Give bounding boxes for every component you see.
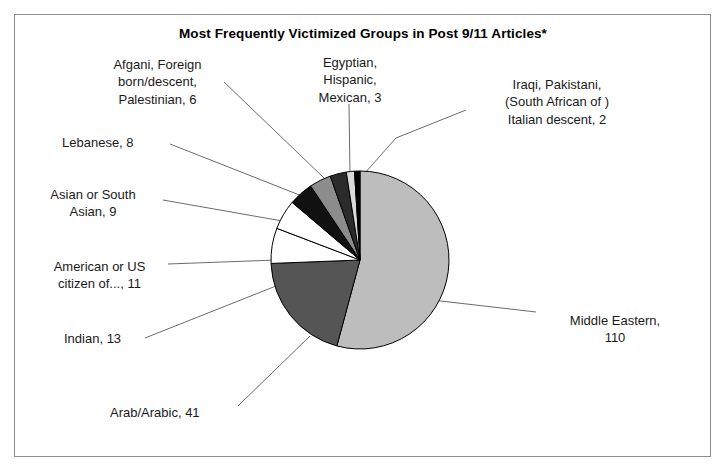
pie-label-lebanese: Lebanese, 8 bbox=[62, 134, 167, 151]
pie-label-middle-eastern: Middle Eastern, 110 bbox=[540, 312, 690, 347]
leader-arab-arabic bbox=[238, 336, 310, 406]
leader-asian bbox=[163, 200, 288, 222]
leader-indian bbox=[145, 286, 276, 338]
pie-label-arab-arabic: Arab/Arabic, 41 bbox=[110, 404, 240, 421]
leader-egyptian bbox=[349, 104, 350, 176]
pie-label-egyptian-hispanic-mexican: Egyptian, Hispanic, Mexican, 3 bbox=[290, 54, 410, 106]
pie-chart-figure: Most Frequently Victimized Groups in Pos… bbox=[0, 0, 726, 474]
leader-iraqi bbox=[396, 110, 466, 138]
pie-label-iraqi-pakistani: Iraqi, Pakistani, (South African of ) It… bbox=[472, 76, 642, 128]
pie-label-indian: Indian, 13 bbox=[64, 330, 144, 347]
pie-label-afgani-foreign-born: Afgani, Foreign born/descent, Palestinia… bbox=[90, 56, 225, 108]
pie-slice-group bbox=[271, 171, 449, 349]
leader-lebanese bbox=[170, 144, 302, 196]
pie-label-asian-or-south-asian: Asian or South Asian, 9 bbox=[28, 186, 158, 221]
leader-american bbox=[168, 260, 277, 264]
pie-label-american-or-us-citizen: American or US citizen of..., 11 bbox=[32, 258, 167, 293]
leader-middle-eastern bbox=[432, 300, 536, 312]
leader-iraqi-2 bbox=[364, 138, 396, 174]
